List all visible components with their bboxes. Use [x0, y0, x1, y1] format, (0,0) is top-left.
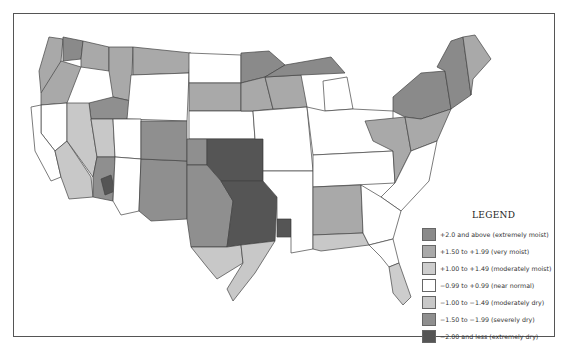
region-florida-south — [389, 263, 411, 305]
legend-title: LEGEND — [472, 210, 515, 220]
region-louisiana-north — [277, 219, 291, 237]
legend-label: +2.0 and above (extremely moist) — [440, 231, 549, 238]
region-new-mexico — [139, 159, 187, 221]
region-arizona-south — [113, 157, 141, 215]
region-colorado-south — [141, 121, 187, 161]
region-idaho-south — [89, 97, 131, 119]
legend-label: +1.50 to +1.99 (very moist) — [440, 248, 529, 255]
legend-item-very-moist: +1.50 to +1.99 (very moist) — [422, 244, 529, 258]
legend-label: +1.00 to +1.49 (moderately moist) — [440, 265, 551, 272]
legend-swatch — [422, 313, 436, 326]
region-alabama-mississippi — [313, 185, 363, 235]
legend-item-extremely-moist: +2.0 and above (extremely moist) — [422, 227, 549, 241]
region-wyoming — [127, 73, 189, 121]
region-north-dakota — [189, 53, 241, 83]
region-texas-south — [191, 245, 243, 279]
legend-swatch — [422, 296, 436, 309]
region-utah-east — [113, 119, 141, 159]
region-gulf-coast-panhandle — [313, 233, 369, 251]
legend-item-moderately-dry: −1.00 to −1.49 (moderately dry) — [422, 295, 544, 309]
legend-swatch — [422, 330, 436, 343]
legend-label: −1.50 to −1.99 (severely dry) — [440, 316, 535, 323]
region-puget-sound — [63, 37, 83, 61]
legend-item-severely-dry: −1.50 to −1.99 (severely dry) — [422, 312, 535, 326]
legend-label: −2.00 and less (extremely dry) — [440, 333, 538, 340]
region-south-dakota — [189, 83, 241, 111]
region-north-montana — [133, 47, 191, 75]
legend-swatch — [422, 245, 436, 258]
legend-label: −0.99 to +0.99 (near normal) — [440, 282, 534, 289]
legend-item-near-normal: −0.99 to +0.99 (near normal) — [422, 278, 534, 292]
region-nebraska — [189, 111, 255, 139]
legend-item-moderately-moist: +1.00 to +1.49 (moderately moist) — [422, 261, 551, 275]
region-kentucky-tennessee — [313, 151, 395, 187]
region-eastern-washington — [81, 41, 109, 71]
map-frame: LEGEND +2.0 and above (extremely moist) … — [13, 13, 555, 337]
legend-swatch — [422, 228, 436, 241]
legend-label: −1.00 to −1.49 (moderately dry) — [440, 299, 544, 306]
region-michigan-lower — [323, 77, 353, 111]
legend-item-extremely-dry: −2.00 and less (extremely dry) — [422, 329, 538, 343]
region-kansas-west — [187, 139, 207, 165]
legend-swatch — [422, 262, 436, 275]
legend-swatch — [422, 279, 436, 292]
